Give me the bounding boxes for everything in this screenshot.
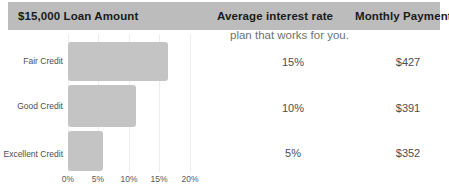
bar-good-credit [68,85,136,127]
bar-fair-credit [68,42,168,81]
payment-value-excellent-credit: $352 [396,147,420,159]
table-header-bar: $15,000 Loan Amount Average interest rat… [8,2,440,30]
xtick-label-3: 15% [150,174,167,184]
xtick-label-1: 5% [92,174,104,184]
xtick-label-0: 0% [62,174,74,184]
background-paragraph: plan that works for you. [230,29,420,42]
chart-row-good-credit: Good Credit [0,85,215,127]
header-monthly-payment: Monthly Payment [355,2,449,30]
chart-row-excellent-credit: Excellent Credit [0,131,215,171]
xtick-label-4: 20% [181,174,198,184]
category-label-fair-credit: Fair Credit [23,56,63,66]
bar-excellent-credit [68,131,103,171]
loan-comparison-panel: plan that works for you. $15,000 Loan Am… [0,0,449,187]
payment-value-fair-credit: $427 [396,56,420,68]
category-label-good-credit: Good Credit [17,101,63,111]
horizontal-bar-chart: 0% 5% 10% 15% 20% Fair Credit Good Credi… [0,34,215,187]
payment-value-good-credit: $391 [396,102,420,114]
rate-value-excellent-credit: 5% [285,147,301,159]
header-average-interest-rate: Average interest rate [217,2,333,30]
category-label-excellent-credit: Excellent Credit [3,149,63,159]
chart-row-fair-credit: Fair Credit [0,34,215,81]
xtick-label-2: 10% [120,174,137,184]
rate-value-fair-credit: 15% [282,56,304,68]
rate-value-good-credit: 10% [282,102,304,114]
header-loan-amount: $15,000 Loan Amount [18,2,138,30]
